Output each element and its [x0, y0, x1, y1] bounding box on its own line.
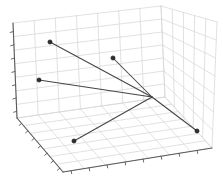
right-wall-gridline — [162, 32, 215, 58]
x-axis-tick — [45, 153, 47, 155]
right-wall-gridline — [161, 6, 217, 22]
scatter-point-marker — [37, 78, 41, 82]
scatter-point-marker — [195, 129, 199, 133]
right-wall-gridline — [163, 58, 214, 94]
scatter-point-marker — [111, 56, 115, 60]
y-axis-tick — [197, 150, 198, 153]
floor-gridline — [30, 112, 178, 134]
floor-gridline — [37, 119, 185, 141]
x-axis-tick — [57, 168, 59, 170]
right-wall-gridline — [164, 71, 214, 112]
scatter-point-marker — [72, 139, 76, 143]
x-axis-tick — [32, 138, 34, 140]
floor-gridline — [43, 126, 192, 149]
y-axis-tick — [107, 165, 108, 168]
screenshot-root — [0, 0, 223, 179]
left-wall-gridline — [119, 11, 123, 103]
data-edge — [113, 58, 152, 97]
right-wall-gridline — [163, 45, 215, 76]
x-axis-spine — [17, 118, 63, 172]
left-wall-gridline — [55, 18, 59, 112]
z-axis-spine — [13, 23, 17, 118]
left-wall-gridline — [14, 19, 162, 37]
x-axis-tick — [19, 123, 21, 125]
left-wall-gridline — [13, 6, 161, 23]
y-axis-tick — [161, 156, 162, 159]
right-wall-gridline — [162, 19, 217, 40]
floor-gridline — [59, 112, 105, 165]
x-axis-tick — [51, 161, 53, 163]
left-wall-gridline — [34, 21, 38, 115]
floor-gridline — [123, 103, 170, 155]
floor-gridline — [38, 115, 84, 169]
floor-gridline — [80, 109, 126, 162]
right-wall-gridline — [193, 16, 194, 128]
right-wall-gridline — [203, 19, 206, 138]
x-axis-tick — [38, 146, 40, 148]
y-axis-tick — [125, 162, 126, 165]
y-axis-tick — [71, 171, 72, 174]
left-wall-gridline — [76, 16, 80, 109]
scatter-point-marker — [48, 40, 52, 44]
floor-gridline — [102, 106, 149, 158]
floor-gridline — [24, 104, 172, 125]
y-axis-tick — [143, 159, 144, 162]
left-wall-gridline — [98, 13, 102, 106]
left-wall-gridline — [14, 32, 162, 50]
y-axis-tick — [179, 153, 180, 156]
data-edge — [39, 80, 152, 97]
plot-canvas — [0, 0, 223, 179]
floor-gridline — [17, 97, 165, 118]
right-wall-gridline — [212, 22, 217, 148]
y-axis-tick — [89, 168, 90, 171]
3d-scatter-figure — [0, 0, 223, 179]
x-axis-tick — [26, 131, 28, 133]
